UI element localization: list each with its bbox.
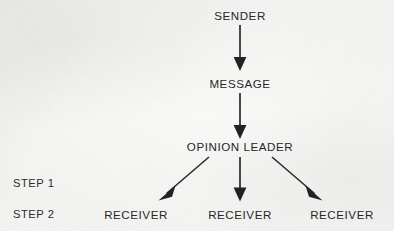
two-step-flow-diagram: SENDER MESSAGE OPINION LEADER RECEIVER R…: [0, 0, 394, 231]
node-receiver-right: RECEIVER: [310, 209, 374, 221]
node-receiver-left: RECEIVER: [104, 209, 168, 221]
arrow-message-to-opinion-leader: [234, 93, 247, 139]
node-sender: SENDER: [214, 10, 266, 22]
arrow-sender-to-message: [234, 25, 247, 71]
node-message: MESSAGE: [209, 78, 270, 90]
node-receiver-center: RECEIVER: [208, 209, 272, 221]
arrow-opinion-leader-to-receiver-left: [159, 157, 210, 201]
arrow-opinion-leader-to-receiver-right: [272, 157, 323, 201]
arrow-opinion-leader-to-receiver-center: [234, 157, 247, 202]
node-opinion-leader: OPINION LEADER: [187, 141, 293, 153]
connector-arrows: [0, 0, 394, 231]
step-label-2: STEP 2: [13, 209, 54, 220]
step-label-1: STEP 1: [13, 178, 54, 189]
